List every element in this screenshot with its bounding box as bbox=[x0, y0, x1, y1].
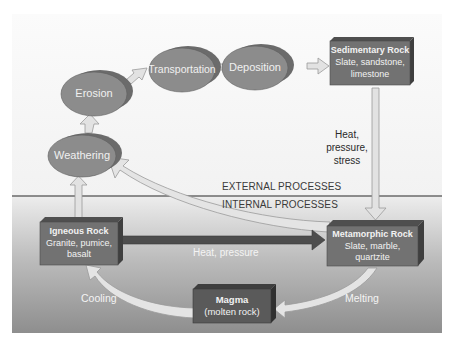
transportation-label: Transportation bbox=[146, 63, 218, 75]
metamorphic-examples-1: Slate, marble, bbox=[327, 241, 418, 253]
stress-text: stress bbox=[325, 154, 369, 167]
cooling-label: Cooling bbox=[81, 292, 117, 304]
rock-cycle-diagram: Weathering Erosion Transportation Deposi… bbox=[0, 0, 458, 350]
sedimentary-title: Sedimentary Rock bbox=[330, 44, 410, 56]
sedimentary-examples-1: Slate, sandstone, bbox=[330, 56, 410, 68]
heat-pressure-stress-label: Heat, pressure, stress bbox=[325, 128, 369, 167]
heat-text: Heat, bbox=[325, 128, 369, 141]
magma-label: Magma (molten rock) bbox=[193, 294, 271, 318]
igneous-examples-1: Granite, pumice, bbox=[40, 238, 118, 250]
magma-description: (molten rock) bbox=[193, 306, 271, 318]
sedimentary-rock-label: Sedimentary Rock Slate, sandstone, limes… bbox=[330, 44, 410, 80]
heat-pressure-label: Heat, pressure bbox=[193, 247, 259, 258]
internal-processes-label: INTERNAL PROCESSES bbox=[222, 199, 338, 210]
metamorphic-rock-label: Metamorphic Rock Slate, marble, quartzit… bbox=[327, 229, 418, 264]
weathering-label: Weathering bbox=[48, 149, 116, 161]
igneous-title: Igneous Rock bbox=[40, 226, 118, 238]
deposition-label: Deposition bbox=[222, 61, 288, 73]
erosion-label: Erosion bbox=[61, 87, 127, 99]
metamorphic-title: Metamorphic Rock bbox=[327, 229, 418, 241]
sedimentary-examples-2: limestone bbox=[330, 68, 410, 80]
melting-label: Melting bbox=[345, 292, 379, 304]
metamorphic-examples-2: quartzite bbox=[327, 252, 418, 264]
igneous-rock-label: Igneous Rock Granite, pumice, basalt bbox=[40, 226, 118, 261]
external-processes-label: EXTERNAL PROCESSES bbox=[222, 181, 341, 192]
magma-title: Magma bbox=[193, 294, 271, 306]
igneous-examples-2: basalt bbox=[40, 249, 118, 261]
pressure-text: pressure, bbox=[325, 141, 369, 154]
